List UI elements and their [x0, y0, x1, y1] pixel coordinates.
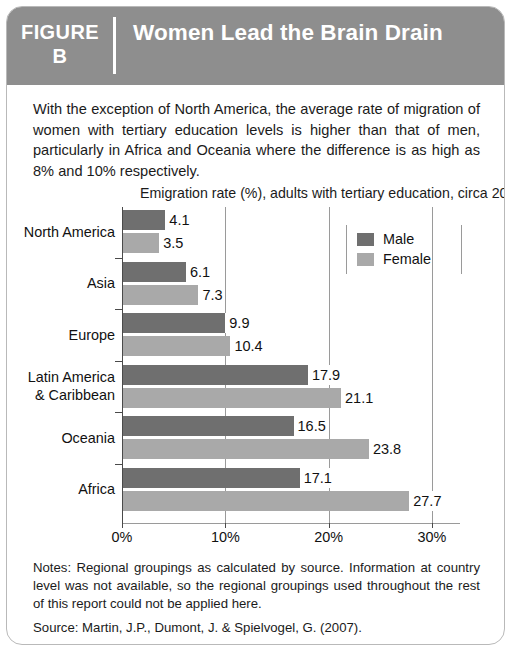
figure-tag-line1: FIGURE	[7, 20, 113, 44]
category-label-line: Africa	[78, 480, 115, 498]
chart-area: Emigration rate (%), adults with tertiar…	[7, 185, 504, 553]
bar-value-label: 4.1	[165, 210, 191, 230]
tick-mark-30%	[432, 523, 433, 528]
bar-female	[123, 388, 341, 408]
tick-mark-20%	[329, 523, 330, 528]
y-axis-minor-tick	[115, 309, 122, 310]
category-label-line: Europe	[69, 326, 115, 344]
figure-tag-line2: B	[7, 44, 113, 68]
bar-value-label: 10.4	[230, 336, 264, 356]
intro-paragraph: With the exception of North America, the…	[33, 99, 480, 181]
bar-value-label: 17.1	[300, 468, 334, 488]
bar-female	[123, 491, 409, 511]
chart-subtitle: Emigration rate (%), adults with tertiar…	[140, 185, 505, 201]
y-axis-minor-tick	[115, 361, 122, 362]
bar-value-label: 27.7	[409, 491, 443, 511]
x-tick-label: 30%	[418, 529, 447, 545]
y-axis-minor-tick	[115, 412, 122, 413]
legend-swatch-icon	[357, 233, 374, 246]
bar-female	[123, 439, 369, 459]
bar-value-label: 7.3	[198, 285, 224, 305]
x-tick-label: 0%	[112, 529, 133, 545]
legend-label: Male	[383, 231, 414, 247]
tick-mark-0%	[122, 523, 123, 528]
category-label: Europe	[69, 326, 115, 344]
y-axis-minor-tick	[115, 258, 122, 259]
bar-value-label: 17.9	[308, 365, 342, 385]
category-label: Latin America& Caribbean	[28, 368, 115, 404]
category-label: North America	[24, 223, 115, 241]
figure-title: Women Lead the Brain Drain	[116, 7, 443, 46]
x-axis-line	[122, 523, 460, 524]
bar-value-label: 6.1	[186, 262, 212, 282]
figure-header: FIGURE B Women Lead the Brain Drain	[7, 7, 504, 85]
x-tick-label: 20%	[314, 529, 343, 545]
category-label: Asia	[87, 274, 115, 292]
figure-tag: FIGURE B	[7, 7, 113, 69]
bar-male	[123, 262, 186, 282]
category-label-line: Asia	[87, 274, 115, 292]
x-tick-label: 10%	[211, 529, 240, 545]
bar-value-label: 23.8	[369, 439, 403, 459]
bar-female	[123, 233, 159, 253]
bar-male	[123, 365, 308, 385]
bar-female	[123, 336, 230, 356]
bar-value-label: 3.5	[159, 233, 185, 253]
tick-mark-10%	[225, 523, 226, 528]
legend-item-male[interactable]: Male	[357, 229, 461, 249]
legend-swatch-icon	[357, 253, 374, 266]
legend-item-female[interactable]: Female	[357, 249, 461, 269]
category-label-line: North America	[24, 223, 115, 241]
category-label-line: & Caribbean	[28, 386, 115, 404]
category-label: Africa	[78, 480, 115, 498]
legend-label: Female	[383, 251, 431, 267]
figure-card: FIGURE B Women Lead the Brain Drain With…	[6, 6, 505, 645]
notes-paragraph: Notes: Regional groupings as calculated …	[33, 559, 480, 614]
category-label: Oceania	[61, 429, 115, 447]
plot-region: 4.13.56.17.39.910.417.921.116.523.817.12…	[122, 207, 460, 523]
bar-value-label: 16.5	[294, 416, 328, 436]
y-axis-minor-tick	[115, 464, 122, 465]
bar-male	[123, 210, 165, 230]
bar-female	[123, 285, 198, 305]
bar-male	[123, 416, 294, 436]
category-label-line: Oceania	[61, 429, 115, 447]
bar-value-label: 21.1	[341, 388, 375, 408]
category-label-line: Latin America	[28, 368, 115, 386]
bar-male	[123, 468, 300, 488]
bar-value-label: 9.9	[225, 313, 251, 333]
source-line: Source: Martin, J.P., Dumont, J. & Spiel…	[33, 619, 480, 637]
bar-male	[123, 313, 225, 333]
chart-legend: MaleFemale	[346, 225, 462, 274]
